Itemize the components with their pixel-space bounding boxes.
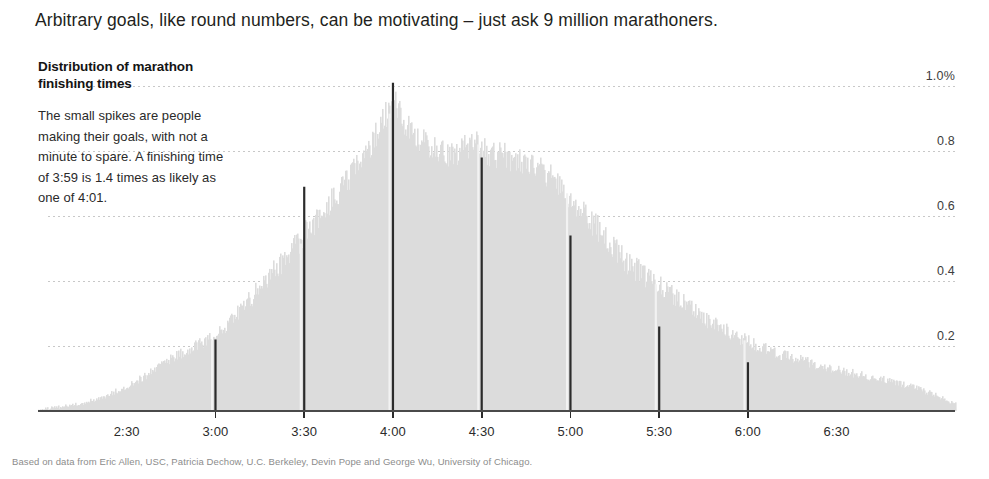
y-tick-label-0.6: 0.6 <box>937 199 955 213</box>
x-tick-label-4:00: 4:00 <box>380 424 406 439</box>
x-tick-label-6:30: 6:30 <box>824 424 850 439</box>
y-tick-label-0.4: 0.4 <box>937 264 955 278</box>
page-title: Arbitrary goals, like round numbers, can… <box>35 8 965 32</box>
annotation-body: The small spikes are people making their… <box>38 106 228 209</box>
x-tick-label-3:00: 3:00 <box>202 424 228 439</box>
x-tick-label-5:30: 5:30 <box>646 424 672 439</box>
x-tick-label-3:30: 3:30 <box>291 424 317 439</box>
x-tick-label-2:30: 2:30 <box>114 424 140 439</box>
y-tick-label-1.0%: 1.0% <box>926 69 955 83</box>
y-tick-label-0.2: 0.2 <box>937 329 955 343</box>
x-tick-label-4:30: 4:30 <box>469 424 495 439</box>
x-tick-label-5:00: 5:00 <box>557 424 583 439</box>
annotation-block: Distribution of marathon finishing times… <box>38 58 228 209</box>
x-tick-label-6:00: 6:00 <box>735 424 761 439</box>
y-tick-label-0.8: 0.8 <box>937 134 955 148</box>
annotation-title: Distribution of marathon finishing times <box>38 58 228 92</box>
source-note: Based on data from Eric Allen, USC, Patr… <box>12 456 532 467</box>
